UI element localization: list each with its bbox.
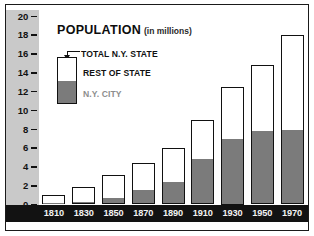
bar-segment-ny-city-1870 bbox=[133, 190, 154, 203]
y-axis-tick: 10 bbox=[0, 105, 39, 116]
bar-segment-ny-city-1890 bbox=[163, 182, 184, 204]
y-axis-tick-label: 10 bbox=[18, 105, 28, 116]
y-axis-tick: 18 bbox=[0, 29, 39, 40]
y-axis-tick-label: 4 bbox=[23, 161, 28, 172]
bar-segment-ny-city-1910 bbox=[192, 159, 213, 203]
bar-segment-ny-city-1950 bbox=[252, 131, 273, 204]
bar-1850 bbox=[102, 175, 125, 204]
bar-group bbox=[39, 10, 307, 206]
bar-segment-ny-city-1830 bbox=[73, 202, 94, 204]
y-axis-tick-mark bbox=[31, 185, 37, 187]
bar-segment-ny-city-1970 bbox=[282, 130, 303, 204]
bar-1910 bbox=[191, 120, 214, 205]
bar-segment-ny-city-1850 bbox=[103, 198, 124, 204]
y-axis-tick: 4 bbox=[0, 161, 39, 172]
y-axis-tick: 6 bbox=[0, 142, 39, 153]
y-axis-tick-mark bbox=[31, 147, 37, 149]
bar-1890 bbox=[162, 148, 185, 205]
y-axis-tick-label: 16 bbox=[18, 48, 28, 59]
y-axis-tick: 8 bbox=[0, 124, 39, 135]
bar-1870 bbox=[132, 163, 155, 204]
y-axis-tick: 20 bbox=[0, 11, 39, 22]
bar-segment-ny-city-1930 bbox=[222, 139, 243, 203]
plot-area bbox=[39, 10, 307, 206]
y-axis-tick: 16 bbox=[0, 48, 39, 59]
y-axis-tick-label: 2 bbox=[23, 180, 28, 191]
bar-1950 bbox=[251, 65, 274, 204]
x-axis-label-1910: 1910 bbox=[188, 205, 218, 222]
y-axis-tick-mark bbox=[31, 53, 37, 55]
y-axis-tick: 2 bbox=[0, 180, 39, 191]
y-axis-tick-label: 8 bbox=[23, 124, 28, 135]
y-axis-tick-label: 18 bbox=[18, 29, 28, 40]
y-axis-tick-mark bbox=[31, 110, 37, 112]
y-axis-tick-label: 14 bbox=[18, 67, 28, 78]
y-axis-tick-mark bbox=[31, 166, 37, 168]
y-axis-tick-mark bbox=[31, 16, 37, 18]
y-axis-tick: 14 bbox=[0, 67, 39, 78]
bar-segment-ny-city-1810 bbox=[43, 203, 64, 204]
y-axis-tick-mark bbox=[31, 72, 37, 74]
y-axis-tick-mark bbox=[31, 34, 37, 36]
x-axis-band: 181018301850187018901910193019501970 bbox=[6, 205, 308, 222]
y-axis-tick: 12 bbox=[0, 86, 39, 97]
bar-1810 bbox=[42, 195, 65, 204]
y-axis-tick-label: 6 bbox=[23, 142, 28, 153]
y-axis-tick-label: 20 bbox=[18, 11, 28, 22]
y-axis-tick-mark bbox=[31, 91, 37, 93]
x-axis-label-1890: 1890 bbox=[158, 205, 188, 222]
y-axis-tick-label: 12 bbox=[18, 86, 28, 97]
x-axis-label-1850: 1850 bbox=[99, 205, 129, 222]
x-axis-label-1810: 1810 bbox=[39, 205, 69, 222]
x-axis-label-1930: 1930 bbox=[218, 205, 248, 222]
population-chart-figure: 02468101214161820 POPULATION(in millions… bbox=[0, 0, 314, 236]
x-axis-label-1870: 1870 bbox=[128, 205, 158, 222]
x-axis-label-1970: 1970 bbox=[277, 205, 307, 222]
x-axis-label-1950: 1950 bbox=[247, 205, 277, 222]
y-axis-tick-mark bbox=[31, 129, 37, 131]
x-axis-label-1830: 1830 bbox=[69, 205, 99, 222]
bar-1830 bbox=[72, 187, 95, 205]
bar-1970 bbox=[281, 35, 304, 205]
bar-1930 bbox=[221, 87, 244, 205]
